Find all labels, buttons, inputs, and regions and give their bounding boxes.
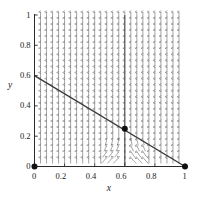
- origin-equilibrium: [32, 164, 38, 170]
- x-tick-label: 0: [32, 172, 36, 181]
- axes-layer: [35, 14, 186, 167]
- x-tick-label: 0.6: [116, 172, 127, 181]
- x-tick-label: 0.4: [86, 172, 97, 181]
- phase-portrait-figure: 00.20.40.60.81 00.20.40.60.81 x y: [0, 0, 198, 197]
- y-tick-label: 1: [5, 11, 31, 20]
- vector-field: [41, 12, 179, 164]
- y-axis-title: y: [8, 81, 12, 91]
- diagonal-nullcline: [35, 76, 186, 167]
- y-tick-label: 0.6: [5, 71, 31, 80]
- y-tick-label: 0.4: [5, 101, 31, 110]
- y-tick-label: 0.2: [5, 132, 31, 141]
- x-tick-label: 0.2: [56, 172, 67, 181]
- x-tick-label: 1: [183, 172, 187, 181]
- y-tick-label: 0: [5, 162, 31, 171]
- boundary-equilibrium: [182, 164, 188, 170]
- y-tick-label: 0.8: [5, 41, 31, 50]
- nullcline-layer: [35, 15, 186, 167]
- equilibrium-points: [32, 126, 189, 170]
- x-axis-title: x: [107, 184, 111, 194]
- interior-equilibrium: [122, 126, 128, 132]
- x-tick-label: 0.8: [146, 172, 157, 181]
